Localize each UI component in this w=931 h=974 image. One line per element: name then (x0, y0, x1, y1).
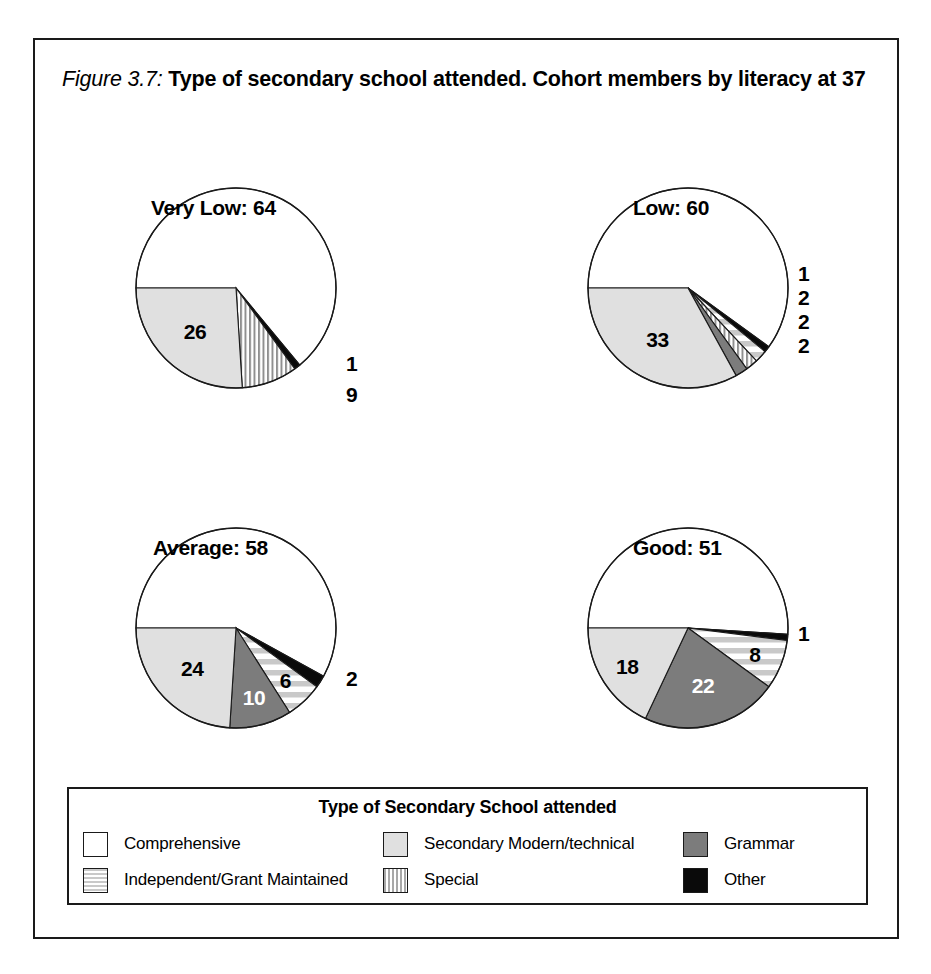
slice-value-label: 26 (184, 320, 206, 343)
pie-panel-grid: 26Very Low: 641933Low: 60122261024Averag… (33, 110, 899, 782)
legend-label: Grammar (724, 834, 794, 854)
pie-heading: Very Low: 64 (151, 196, 276, 220)
slice-value-label: 8 (749, 643, 761, 666)
legend-swatch-vertical-stripes (383, 868, 408, 893)
pie-heading: Good: 51 (633, 536, 722, 560)
legend-label: Other (724, 870, 766, 890)
legend-title: Type of Secondary School attended (69, 797, 866, 818)
figure-title: Type of secondary school attended. Cohor… (168, 67, 865, 91)
pie-chart-4: 82218 (485, 450, 905, 780)
legend: Type of Secondary School attended Compre… (67, 787, 868, 905)
pie-panel-good: 82218Good: 511 (485, 450, 905, 780)
figure-number: Figure 3.7: (62, 67, 163, 91)
pie-panel-very-low: 26Very Low: 6419 (33, 110, 453, 440)
slice-value-label: 33 (646, 328, 668, 351)
legend-label: Special (424, 870, 478, 890)
legend-label: Comprehensive (124, 834, 240, 854)
pie-chart-3: 61024 (33, 450, 453, 780)
legend-label: Secondary Modern/technical (424, 834, 634, 854)
slice-callout-label: 1 (798, 262, 809, 286)
slice-callout-label: 2 (798, 286, 809, 310)
slice-callout-label: 2 (798, 310, 809, 334)
legend-label: Independent/Grant Maintained (124, 870, 348, 890)
legend-item-secondary-modern-technical[interactable]: Secondary Modern/technical (383, 829, 634, 859)
figure-root: Figure 3.7: Type of secondary school att… (0, 0, 931, 974)
pie-chart-1: 26 (33, 110, 453, 440)
pie-heading: Low: 60 (633, 196, 709, 220)
figure-caption: Figure 3.7: Type of secondary school att… (62, 62, 862, 96)
legend-item-independent-grant-maintained[interactable]: Independent/Grant Maintained (83, 865, 348, 895)
legend-swatch-solid-black (683, 868, 708, 893)
slice-callout-label: 9 (346, 383, 357, 407)
legend-item-grammar[interactable]: Grammar (683, 829, 794, 859)
legend-item-other[interactable]: Other (683, 865, 766, 895)
legend-items: ComprehensiveSecondary Modern/technicalG… (83, 829, 853, 899)
legend-swatch-solid-white (83, 832, 108, 857)
slice-value-label: 22 (692, 674, 714, 697)
slice-value-label: 6 (280, 669, 291, 692)
legend-item-special[interactable]: Special (383, 865, 478, 895)
slice-callout-label: 1 (798, 622, 809, 646)
pie-chart-2: 33 (485, 110, 905, 440)
pie-heading: Average: 58 (153, 536, 268, 560)
slice-callout-label: 2 (346, 667, 357, 691)
legend-swatch-solid-gray (683, 832, 708, 857)
slice-callout-label: 2 (798, 334, 809, 358)
slice-value-label: 18 (616, 655, 639, 678)
pie-panel-average: 61024Average: 582 (33, 450, 453, 780)
slice-value-label: 24 (181, 657, 204, 680)
legend-swatch-horizontal-stripes (83, 868, 108, 893)
pie-panel-low: 33Low: 601222 (485, 110, 905, 440)
slice-value-label: 10 (243, 686, 265, 709)
slice-callout-label: 1 (346, 352, 357, 376)
legend-item-comprehensive[interactable]: Comprehensive (83, 829, 240, 859)
legend-swatch-solid-light-gray (383, 832, 408, 857)
